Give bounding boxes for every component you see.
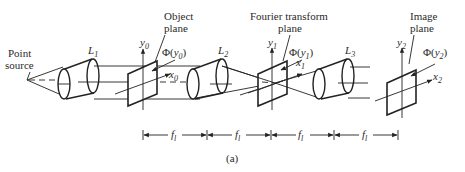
focal-spacing-4: fl — [362, 128, 368, 143]
lens-l2: L2 — [187, 44, 232, 99]
image-plane: y2 x2 Image plane Φ(y2) — [375, 10, 448, 118]
optical-system-diagram: Point source L1 y0 x0 Object plane Φ(y0) — [0, 0, 465, 172]
y0-label: y0 — [139, 36, 149, 51]
y1-label: y1 — [267, 36, 277, 51]
lens-l1: L1 — [58, 44, 99, 99]
x0-label: x0 — [168, 68, 178, 83]
x1-label: x1 — [295, 56, 305, 71]
focal-spacing-2: fl — [235, 128, 241, 143]
phi-y2-label: Φ(y2) — [423, 46, 448, 61]
figure-caption: (a) — [226, 152, 239, 165]
point-source: Point source — [5, 47, 66, 97]
lens-l1-label: L1 — [87, 44, 98, 59]
lens-l3-label: L3 — [344, 44, 355, 59]
object-plane: y0 x0 Object plane Φ(y0) — [115, 10, 193, 110]
y2-label: y2 — [396, 36, 406, 51]
phi-y1-label: Φ(y1) — [289, 46, 314, 61]
point-source-label-line2: source — [5, 59, 34, 71]
object-plane-label-line1: Object — [164, 10, 193, 22]
image-plane-pointer — [409, 35, 414, 64]
lens-l3: L3 — [313, 44, 355, 99]
focal-spacing-1: fl — [171, 128, 177, 143]
fourier-plane-label-line1: Fourier transform — [250, 10, 328, 22]
focal-length-dimension: fl fl fl fl — [143, 128, 398, 143]
fourier-plane-label-line2: plane — [278, 22, 302, 34]
image-plane-label-line1: Image — [410, 10, 438, 22]
focal-spacing-3: fl — [298, 128, 304, 143]
point-source-label-line1: Point — [8, 47, 31, 59]
phi-y0-label: Φ(y0) — [162, 46, 187, 61]
x2-label: x2 — [432, 70, 442, 85]
fourier-transform-plane: y1 x1 Fourier transform plane Φ(y1) — [222, 10, 328, 110]
image-plane-label-line2: plane — [410, 22, 434, 34]
object-plane-label-line2: plane — [164, 22, 188, 34]
lens-l2-label: L2 — [217, 44, 228, 59]
